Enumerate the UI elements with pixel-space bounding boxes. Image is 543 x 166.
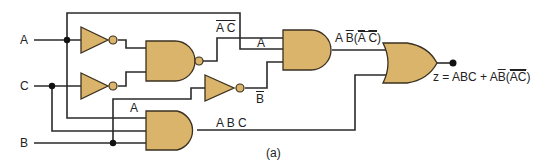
label-and1-output: A B(A C) (335, 31, 381, 44)
input-label-c: C (20, 80, 29, 92)
label-ac-overbar: A C (358, 31, 377, 44)
label-nand-out-c: C (227, 21, 236, 35)
and-gate-2 (146, 111, 193, 150)
not-gate-a (81, 27, 117, 53)
and-gate-1 (283, 30, 331, 70)
label-and1-out-a: A (335, 31, 342, 45)
not-gate-b (205, 75, 244, 101)
or-gate (383, 43, 437, 83)
input-label-b: B (20, 137, 28, 149)
label-inv-b-output: B (256, 93, 264, 105)
label-nand-out-a: A (216, 21, 223, 35)
label-and2-output: A B C (216, 117, 247, 129)
junction-a (64, 37, 70, 43)
label-and2-input-a: A (130, 102, 138, 114)
label-and1-input-a: A (257, 37, 265, 49)
wire-inv2-to-nand (118, 72, 146, 86)
wire-inv1-to-nand (118, 40, 146, 48)
label-and1-out-b-bar: B (346, 31, 354, 45)
logic-circuit-diagram: A C B A C A B A B(A C) A A B C z = ABC +… (0, 0, 543, 166)
label-b-bar: B (256, 92, 264, 106)
label-ac-c: C (368, 31, 377, 45)
nand-gate (146, 41, 203, 81)
label-nand-output: A C (216, 20, 235, 34)
output-terminal (450, 60, 457, 67)
output-eq-prefix: z = ABC + A (433, 70, 498, 84)
output-eq-ac-overbar: AC (510, 70, 527, 83)
output-eq-ac: AC (510, 70, 527, 84)
junction-b (110, 140, 116, 146)
output-eq-b-bar: B (498, 70, 506, 84)
label-paren-close: ) (377, 31, 381, 45)
output-equation: z = ABC + AB(AC) (433, 70, 530, 83)
junction-c (49, 83, 55, 89)
input-label-a: A (20, 34, 28, 46)
output-eq-paren-close: ) (526, 70, 530, 84)
label-ac-a: A (358, 31, 365, 45)
not-gate-c (81, 73, 117, 99)
figure-caption: (a) (266, 147, 281, 159)
wire-inv3-to-and1 (245, 62, 283, 88)
